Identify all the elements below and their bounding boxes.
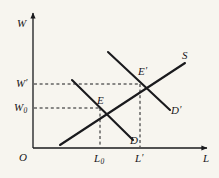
y-tick-w-zero-subscript: 0 — [23, 106, 27, 115]
shifted-demand-curve — [108, 52, 170, 110]
curves — [60, 52, 185, 145]
y-axis-label: W — [17, 18, 26, 29]
shifted-demand-curve-label: D′ — [171, 105, 181, 116]
x-axis-label: L — [203, 153, 209, 164]
new-equilibrium-label-mark: ′ — [145, 65, 147, 76]
x-tick-label-l-prime: L′ — [135, 153, 144, 164]
x-tick-label-l-zero: L0 — [94, 153, 104, 166]
x-tick-l-prime-mark: ′ — [141, 152, 143, 163]
supply-curve — [60, 63, 185, 145]
shifted-demand-label-mark: ′ — [179, 104, 181, 115]
y-tick-w-zero-base: W — [14, 101, 23, 113]
y-tick-label-w-zero: W0 — [14, 102, 27, 115]
demand-curve-label: D — [130, 135, 138, 146]
new-equilibrium-point-label: E′ — [138, 66, 147, 77]
shifted-demand-label-base: D — [171, 104, 179, 116]
supply-curve-label: S — [182, 50, 188, 61]
equilibrium-point-label: E — [97, 95, 104, 106]
supply-demand-figure — [0, 0, 219, 178]
y-tick-w-prime-base: W — [16, 77, 25, 89]
diagram-canvas: W L O W′ W0 L0 L′ S D D′ E E′ — [0, 0, 219, 178]
y-tick-w-prime-mark: ′ — [25, 77, 27, 88]
y-tick-label-w-prime: W′ — [16, 78, 28, 89]
origin-label: O — [19, 152, 27, 163]
x-tick-l-zero-subscript: 0 — [100, 157, 104, 166]
new-equilibrium-label-base: E — [138, 65, 145, 77]
